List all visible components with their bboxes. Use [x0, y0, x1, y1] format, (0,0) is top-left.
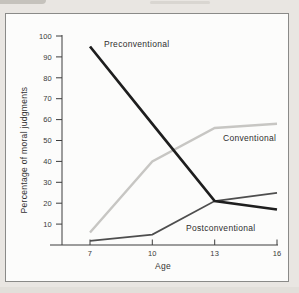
- x-tick-label: 13: [210, 249, 219, 258]
- y-tick-label: 60: [43, 115, 52, 124]
- y-axis-title: Percentage of moral judgments: [19, 87, 29, 214]
- preconventional-series-label: Preconventional: [104, 39, 169, 49]
- y-tick-label: 90: [43, 53, 52, 62]
- postconventional-series-label: Postconventional: [186, 223, 256, 233]
- x-tick-label: 7: [88, 249, 92, 258]
- x-tick-label: 10: [148, 249, 157, 258]
- y-tick-label: 10: [43, 220, 52, 229]
- scanned-figure-page: 1020304050607080901007101316 Percentage …: [0, 0, 299, 293]
- y-tick-label: 20: [43, 199, 52, 208]
- moral-judgment-line-chart: 1020304050607080901007101316 Percentage …: [0, 0, 299, 293]
- y-tick-label: 80: [43, 74, 52, 83]
- conventional-series-label: Conventional: [223, 133, 276, 143]
- y-tick-label: 50: [43, 136, 52, 145]
- x-axis-title: Age: [155, 261, 171, 271]
- x-tick-label: 16: [273, 249, 282, 258]
- y-tick-label: 40: [43, 157, 52, 166]
- y-tick-label: 30: [43, 178, 52, 187]
- y-tick-label: 100: [39, 32, 52, 41]
- y-tick-label: 70: [43, 94, 52, 103]
